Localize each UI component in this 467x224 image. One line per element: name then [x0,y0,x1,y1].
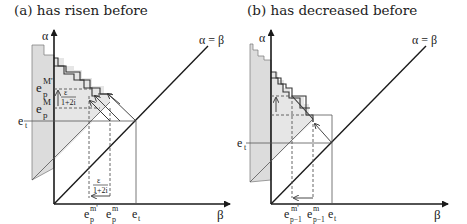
panel-a-diagonal-label: α = β [199,33,224,47]
svg-text:1+2i: 1+2i [61,98,77,107]
panel-a-bottom-label-epm: e p m [106,204,119,224]
panel-b-path-arrow [315,124,332,143]
svg-text:t: t [25,121,28,130]
svg-text:p−1: p−1 [313,215,325,224]
svg-text:1+2i: 1+2i [93,186,109,195]
panel-b-et-left-label: e t [237,136,247,152]
svg-text:e: e [84,207,89,221]
panel-a: (a) has risen before [14,2,230,224]
svg-text:e: e [328,207,333,221]
svg-text:p: p [43,110,48,120]
panel-a-alpha-label: α [42,29,49,43]
panel-b-bottom-label-epm: e p−1 m [307,204,325,224]
svg-text:e: e [307,207,312,221]
svg-text:t: t [334,214,337,223]
svg-text:e: e [18,114,23,128]
svg-text:M': M' [43,76,53,86]
svg-text:e: e [36,101,42,116]
panel-b-diagonal-label: α = β [412,33,437,47]
panel-a-title: (a) has risen before [14,2,148,18]
svg-text:m: m [112,204,119,213]
panel-b-shaded-region-left [250,44,271,182]
svg-text:m': m' [90,204,98,213]
panel-b-bottom-label-epm-prime: e p−1 m' [284,204,302,224]
panel-a-beta-label: β [217,207,224,222]
panel-b-bottom-label-et: e t [328,207,337,223]
svg-text:p: p [90,215,94,224]
panel-b-title: (b) has decreased before [247,2,417,18]
svg-text:p: p [112,215,116,224]
svg-text:e: e [132,207,137,221]
svg-text:e: e [106,207,111,221]
svg-text:M: M [43,97,51,107]
svg-text:ε: ε [97,176,101,185]
panel-a-fraction-lower: ε 1+2i [93,176,109,195]
svg-text:e: e [237,136,242,150]
svg-text:m': m' [291,204,299,213]
panel-b-beta-label: β [434,207,441,222]
panel-a-bottom-label-et: e t [132,207,141,223]
panel-a-et-left-label: e t [18,114,28,130]
panel-a-shaded-lower [54,122,92,160]
svg-text:e: e [36,80,42,95]
panel-a-bottom-label-epm-prime: e p m' [84,204,98,224]
preisach-diagram-figure: (a) has risen before [0,0,467,224]
panel-b: (b) has decreased before α β [237,2,448,224]
svg-text:m: m [313,204,320,213]
svg-text:e: e [284,207,289,221]
svg-text:p−1: p−1 [290,215,302,224]
panel-b-alpha-label: α [259,31,266,45]
svg-text:t: t [138,214,141,223]
svg-text:t: t [244,143,247,152]
